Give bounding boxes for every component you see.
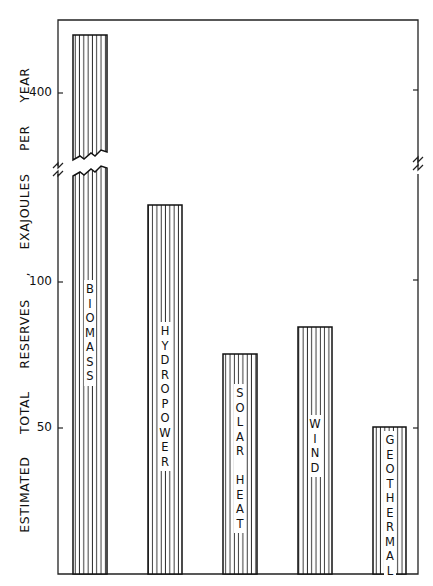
y-tick-100: 100	[22, 274, 52, 288]
y-tick-50: 50	[22, 420, 52, 434]
bar-label-solar-heat: SOLAR HEAT	[234, 384, 246, 533]
bar-label-geothermal: GEOTHERMAL	[384, 431, 396, 580]
axis-break-marks	[53, 157, 423, 176]
bar-chart	[0, 0, 433, 586]
bar-label-biomass: BIOMASS	[84, 280, 96, 386]
bar-biomass-top	[73, 35, 107, 160]
bar-label-hydropower: HYDROPOWER	[159, 322, 171, 471]
bar-label-wind: WIND	[309, 415, 321, 477]
y-axis-label: ESTIMATED TOTAL RESERVES , EXAJOULES PER…	[17, 20, 33, 580]
y-tick-400: 400	[22, 85, 52, 99]
